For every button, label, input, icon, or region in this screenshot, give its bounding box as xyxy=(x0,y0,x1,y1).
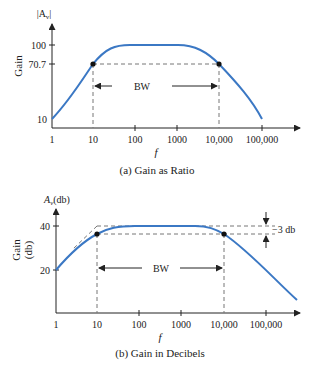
y-axis-unit-label: (db) xyxy=(22,241,35,260)
bandwidth-label: BW xyxy=(153,263,170,274)
caption-b: (b) Gain in Decibels xyxy=(115,347,205,360)
bandwidth-figure: 100 70.7 10 1 10 100 1000 10,000 100,000… xyxy=(0,0,314,369)
upper-cutoff-point xyxy=(216,61,221,66)
gain-curve xyxy=(56,226,297,300)
asymptote-line xyxy=(72,226,97,250)
y-tick-10: 10 xyxy=(37,114,47,125)
x-tick-10000: 10,000 xyxy=(210,319,238,330)
x-tick-100: 100 xyxy=(128,134,143,145)
panel-a-gain-ratio: 100 70.7 10 1 10 100 1000 10,000 100,000… xyxy=(12,8,300,177)
x-tick-1: 1 xyxy=(50,134,55,145)
minus-3db-label: −3 db xyxy=(272,224,295,235)
x-tick-1000: 1000 xyxy=(171,319,191,330)
x-tick-10000: 10,000 xyxy=(205,134,233,145)
gain-curve xyxy=(52,45,262,119)
x-axis-label: f xyxy=(158,331,163,343)
x-tick-10: 10 xyxy=(92,319,102,330)
x-tick-100: 100 xyxy=(132,319,147,330)
y-tick-40: 40 xyxy=(40,221,50,232)
y-axis-symbol: Av(db) xyxy=(43,194,70,207)
x-tick-1: 1 xyxy=(54,319,59,330)
lower-cutoff-point xyxy=(90,61,95,66)
caption-a: (a) Gain as Ratio xyxy=(120,164,195,177)
x-tick-100000: 100,000 xyxy=(250,319,283,330)
upper-cutoff-point xyxy=(221,231,226,236)
y-axis-label: Gain xyxy=(12,55,24,77)
panel-b-gain-decibels: 40 20 1 10 100 1000 10,000 100,000 Av(db… xyxy=(10,194,300,360)
x-tick-1000: 1000 xyxy=(167,134,187,145)
y-tick-70-7: 70.7 xyxy=(29,59,47,70)
y-tick-20: 20 xyxy=(40,265,50,276)
y-axis-label: Gain xyxy=(10,239,22,261)
x-axis-label: f xyxy=(154,146,159,158)
bandwidth-label: BW xyxy=(134,81,151,92)
y-axis-symbol: |Av| xyxy=(37,8,52,21)
lower-cutoff-point xyxy=(94,231,99,236)
y-tick-100: 100 xyxy=(31,40,46,51)
x-tick-10: 10 xyxy=(88,134,98,145)
x-tick-100000: 100,000 xyxy=(246,134,279,145)
